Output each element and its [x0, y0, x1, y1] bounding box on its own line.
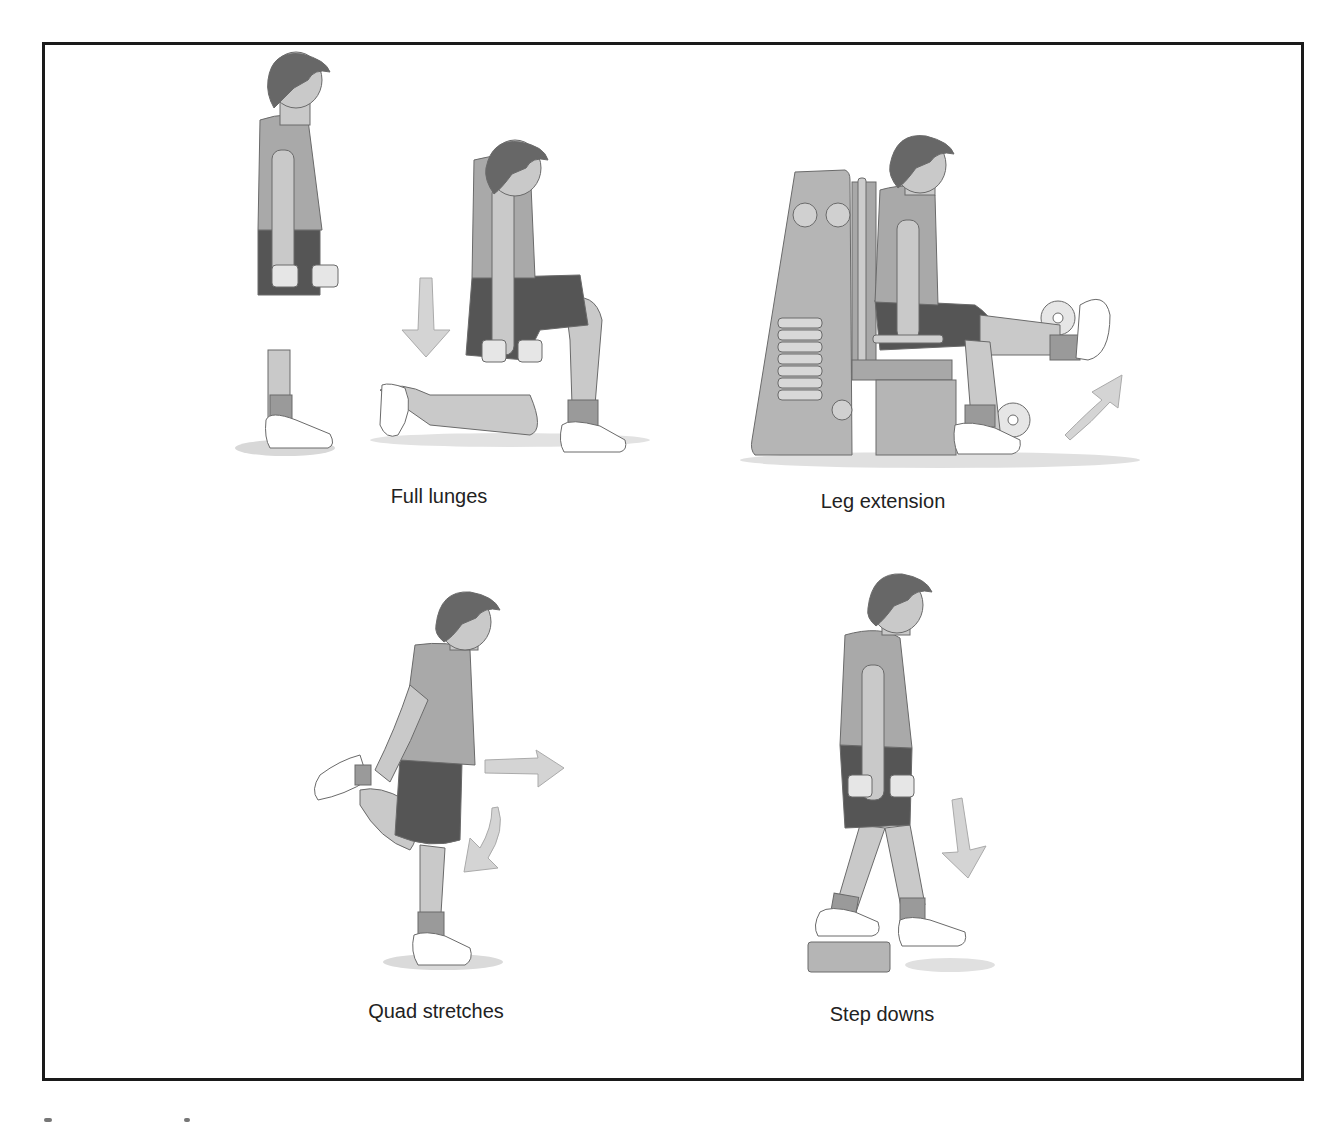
caption-step-downs: Step downs: [830, 1003, 935, 1026]
step-downs-illustration: [800, 560, 1000, 980]
full-lunges-illustration: [230, 50, 650, 480]
quad-stretch-figure-icon: [314, 592, 500, 965]
panel-step-downs: [800, 560, 1000, 980]
diagonal-down-arrow-icon: [942, 798, 986, 878]
caption-leg-extension: Leg extension: [821, 490, 946, 513]
curved-up-arrow-icon: [1065, 375, 1122, 440]
quad-stretches-illustration: [300, 560, 580, 980]
step-down-figure-icon: [815, 574, 965, 946]
standing-figure-icon: [258, 52, 338, 448]
step-block-icon: [808, 942, 890, 972]
cropped-text-fragment: [44, 1118, 1304, 1129]
curved-down-arrow-icon: [464, 807, 500, 872]
caption-full-lunges: Full lunges: [391, 485, 488, 508]
panel-full-lunges: [230, 50, 650, 480]
panel-quad-stretches: [300, 560, 580, 980]
leg-extension-illustration: [740, 110, 1140, 480]
panel-leg-extension: [740, 110, 1140, 480]
caption-quad-stretches: Quad stretches: [368, 1000, 504, 1023]
right-arrow-icon: [485, 750, 564, 787]
down-arrow-icon: [402, 278, 450, 357]
lunging-figure-icon: [380, 140, 626, 452]
